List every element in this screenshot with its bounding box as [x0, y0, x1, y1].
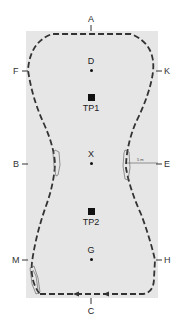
- label-d: D: [76, 56, 106, 66]
- marker-m: M: [12, 255, 20, 265]
- point-d: [90, 69, 93, 72]
- marker-k: K: [164, 66, 170, 76]
- marker-c: C: [76, 306, 106, 316]
- label-g: G: [76, 245, 106, 255]
- point-x: [90, 162, 93, 165]
- marker-e: E: [164, 159, 170, 169]
- point-g: [90, 258, 93, 261]
- marker-h: H: [164, 255, 171, 265]
- label-x: X: [76, 149, 106, 159]
- turn-point-1: [88, 94, 95, 101]
- label-tp1: TP1: [76, 103, 106, 113]
- marker-f: F: [13, 66, 19, 76]
- marker-b: B: [13, 159, 19, 169]
- marker-a: A: [76, 14, 106, 24]
- label-tp2: TP2: [76, 217, 106, 227]
- distance-label: 5 m: [137, 157, 144, 162]
- hoofprint-m: [30, 266, 40, 294]
- turn-point-2: [88, 208, 95, 215]
